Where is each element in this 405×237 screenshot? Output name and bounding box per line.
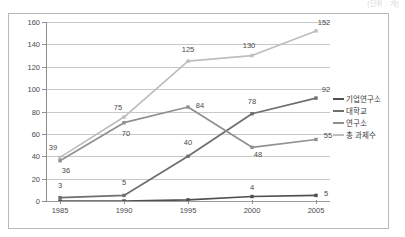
y-axis-tick-label: 0 — [36, 197, 40, 206]
chart-legend: 기업연구소대학교연구소총 과제수 — [333, 93, 403, 141]
y-axis-tick — [42, 134, 47, 135]
data-point-label: 70 — [122, 130, 130, 138]
y-axis-tick-label: 80 — [32, 107, 40, 116]
data-point-label: 5 — [122, 180, 126, 188]
legend-item[interactable]: 대학교 — [333, 105, 403, 116]
x-axis-tick-label: 2000 — [244, 206, 261, 215]
y-axis-tick — [42, 44, 47, 45]
y-axis-tick-label: 20 — [32, 174, 40, 183]
x-axis-labels: 19851990199520002005 — [46, 206, 330, 220]
data-point-label: 4 — [250, 184, 254, 192]
y-axis-tick — [42, 67, 47, 68]
legend-color-swatch — [333, 122, 344, 124]
data-point-label: 40 — [184, 140, 192, 148]
x-axis-tick-label: 1995 — [180, 206, 197, 215]
data-point-label: 84 — [196, 102, 204, 110]
data-point-label: 55 — [324, 133, 332, 141]
chart-figure: (단위 : 개) 020406080100120140160 198519901… — [0, 0, 405, 237]
data-point-label: 5 — [324, 191, 328, 199]
data-point-label: 36 — [62, 167, 70, 175]
y-axis-tick-label: 60 — [32, 129, 40, 138]
legend-color-swatch — [333, 98, 344, 100]
legend-color-swatch — [333, 110, 344, 112]
data-point-label: 130 — [243, 42, 256, 50]
data-point-label: 125 — [182, 46, 195, 54]
data-point-label: 152 — [318, 19, 331, 27]
legend-label: 총 과제수 — [346, 129, 376, 140]
y-axis-tick-label: 120 — [27, 62, 40, 71]
legend-item[interactable]: 기업연구소 — [333, 93, 403, 104]
y-axis-tick-label: 40 — [32, 152, 40, 161]
data-value-labels: 453540789236708448553975125130152 — [46, 22, 330, 201]
legend-label: 대학교 — [346, 105, 367, 116]
y-axis-tick — [42, 201, 47, 202]
legend-color-swatch — [333, 134, 344, 136]
legend-label: 기업연구소 — [346, 93, 381, 104]
legend-label: 연구소 — [346, 117, 367, 128]
data-point-label: 78 — [248, 98, 256, 106]
x-axis-tick-label: 2005 — [308, 206, 325, 215]
legend-item[interactable]: 연구소 — [333, 117, 403, 128]
y-axis-tick — [42, 156, 47, 157]
y-axis-tick — [42, 112, 47, 113]
y-axis-tick-label: 140 — [27, 40, 40, 49]
x-axis-tick-label: 1990 — [116, 206, 133, 215]
legend-item[interactable]: 총 과제수 — [333, 129, 403, 140]
y-axis-tick — [42, 22, 47, 23]
y-axis-labels: 020406080100120140160 — [6, 22, 40, 201]
x-axis-tick-label: 1985 — [52, 206, 69, 215]
y-axis-tick — [42, 179, 47, 180]
data-point-label: 39 — [49, 145, 57, 153]
y-axis-tick-label: 100 — [27, 85, 40, 94]
data-point-label: 3 — [58, 182, 62, 190]
data-point-label: 75 — [114, 104, 122, 112]
y-axis-tick — [42, 89, 47, 90]
y-axis-tick-label: 160 — [27, 18, 40, 27]
data-point-label: 48 — [254, 152, 262, 160]
data-point-label: 92 — [322, 86, 330, 94]
